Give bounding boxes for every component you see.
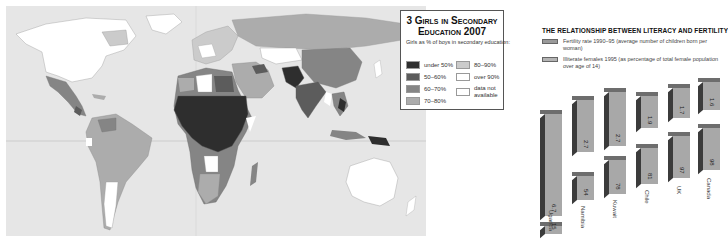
bar-value: 98 <box>703 159 720 166</box>
category-label-chile: Chile <box>644 190 650 204</box>
map-legend-subtitle: Girls as % of boys in secondary educatio… <box>406 39 498 45</box>
bar-fertility-uk: 1.7 <box>668 84 690 118</box>
legend-item-80-90: 80–90% <box>456 61 496 69</box>
category-label-canada: Canada <box>706 178 712 199</box>
category-label-uganda: Uganda <box>548 210 554 231</box>
map-legend-title-line2: Education 2007 <box>406 26 498 37</box>
legend-label: data not available <box>474 85 500 99</box>
legend-item-no-data: data not available <box>456 85 500 99</box>
legend-item-60-70: 60–70% <box>406 85 446 93</box>
legend-swatch-fertility <box>542 39 558 44</box>
bar-illiterate-chile: 81 <box>636 144 658 184</box>
legend-swatch <box>406 73 420 81</box>
literacy-fertility-chart: The Relationship Between Literacy and Fe… <box>500 0 722 242</box>
bar-illiterate-kuwait: 78 <box>604 156 626 194</box>
map-legend-title-line1: 3 Girls in Secondary <box>406 15 498 26</box>
chart-legend-illiterate: Illiterate females 1995 (as percentage o… <box>542 56 718 70</box>
bar-value: 81 <box>641 173 658 180</box>
bar-value: 1.9 <box>641 116 658 124</box>
bar-fertility-canada: 1.6 <box>698 78 720 110</box>
legend-swatch <box>406 85 420 93</box>
bar-illiterate-canada: 98 <box>698 124 720 170</box>
category-label-uk: UK <box>676 186 682 194</box>
legend-swatch <box>406 97 420 105</box>
bar-illiterate-uk: 97 <box>668 132 690 178</box>
bar-fertility-namibia: 2.7 <box>572 96 594 152</box>
category-label-kuwait: Kuwait <box>612 200 618 218</box>
bar-value: 2.7 <box>609 134 626 142</box>
legend-swatch <box>406 61 420 69</box>
legend-label: 60–70% <box>424 86 446 92</box>
legend-swatch <box>456 61 470 69</box>
bar-fertility-kuwait: 2.7 <box>604 88 626 146</box>
bar-fertility-chile: 1.9 <box>636 92 658 128</box>
bar-value: 54 <box>577 189 594 196</box>
bar-value: 2.7 <box>577 140 594 148</box>
legend-item-under-50: under 50% <box>406 61 453 69</box>
bar-value: 1.7 <box>673 106 690 114</box>
bar-value: 97 <box>673 167 690 174</box>
legend-label: 70–80% <box>424 98 446 104</box>
legend-label: over 90% <box>474 74 499 80</box>
legend-swatch <box>456 88 470 96</box>
bar-fertility-uganda: 6.7 <box>540 110 562 216</box>
map-legend-box: 3 Girls in Secondary Education 2007 Girl… <box>400 10 504 110</box>
legend-item-50-60: 50–60% <box>406 73 446 81</box>
legend-label-illiterate: Illiterate females 1995 (as percentage o… <box>563 56 718 70</box>
legend-label: 50–60% <box>424 74 446 80</box>
chart-title: The Relationship Between Literacy and Fe… <box>542 27 728 34</box>
world-map-shapes <box>6 6 426 236</box>
legend-label-fertility: Fertility rate 1990–95 (average number o… <box>563 38 718 52</box>
bar-illiterate-namibia: 54 <box>572 172 594 200</box>
chart-legend-fertility: Fertility rate 1990–95 (average number o… <box>542 38 718 52</box>
legend-label: 80–90% <box>474 62 496 68</box>
bar-value: 1.6 <box>703 98 720 106</box>
world-map <box>6 6 426 236</box>
category-label-namibia: Namibia <box>580 206 586 228</box>
legend-item-over-90: over 90% <box>456 73 499 81</box>
legend-item-70-80: 70–80% <box>406 97 446 105</box>
legend-swatch <box>456 73 470 81</box>
legend-swatch-illiterate <box>542 57 558 62</box>
bar-value: 78 <box>609 183 626 190</box>
legend-label: under 50% <box>424 62 453 68</box>
